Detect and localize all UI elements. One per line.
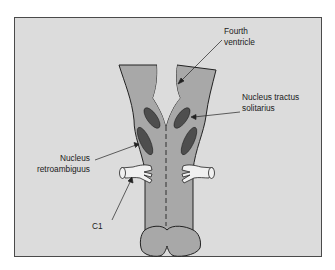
label-c1: C1 xyxy=(92,221,103,232)
c1-nerve-root-right xyxy=(182,165,215,183)
label-line: solitarius xyxy=(242,103,299,114)
c1-nerve-root-left xyxy=(120,165,153,183)
label-line: ventricle xyxy=(224,37,255,48)
label-line: Fourth xyxy=(224,26,255,37)
label-line: Nucleus tractus xyxy=(242,92,299,103)
label-nucleus-tractus-solitarius: Nucleus tractus solitarius xyxy=(242,92,299,113)
label-line: Nucleus xyxy=(20,153,90,164)
brainstem-diagram xyxy=(0,0,335,270)
label-line: retroambiguus xyxy=(20,164,90,175)
label-fourth-ventricle: Fourth ventricle xyxy=(224,26,255,47)
label-line: C1 xyxy=(92,221,103,232)
label-nucleus-retroambiguus: Nucleus retroambiguus xyxy=(20,153,90,174)
